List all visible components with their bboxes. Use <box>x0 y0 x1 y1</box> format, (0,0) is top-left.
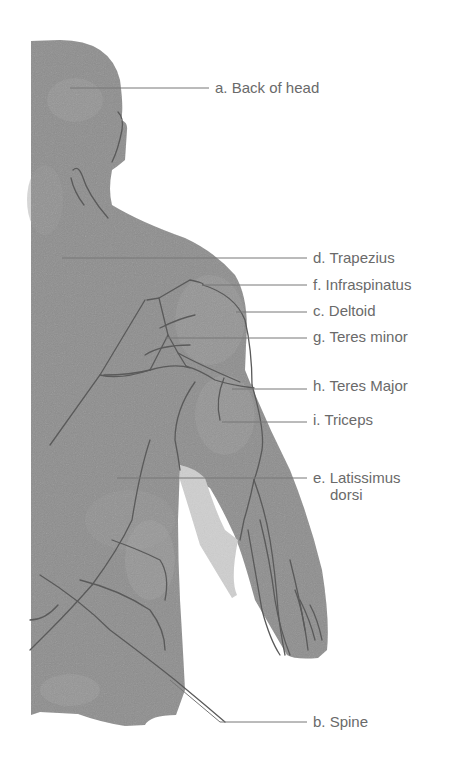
label-teres-major: h. Teres Major <box>313 377 408 394</box>
label-spine: b. Spine <box>313 713 368 730</box>
label-latissimus-line1: e. Latissimus <box>313 469 401 486</box>
label-triceps: i. Triceps <box>313 411 373 428</box>
anatomy-figure: a. Back of head d. Trapezius f. Infraspi… <box>0 0 472 776</box>
label-infraspinatus: f. Infraspinatus <box>313 276 411 293</box>
label-teres-minor: g. Teres minor <box>313 328 408 345</box>
label-deltoid: c. Deltoid <box>313 302 376 319</box>
label-latissimus-dorsi: e. Latissimus dorsi <box>313 469 401 503</box>
label-trapezius: d. Trapezius <box>313 249 395 266</box>
label-back-of-head: a. Back of head <box>215 79 319 96</box>
label-latissimus-line2: dorsi <box>313 486 401 503</box>
torso-silhouette <box>31 40 328 726</box>
leader-line-b <box>170 680 307 722</box>
